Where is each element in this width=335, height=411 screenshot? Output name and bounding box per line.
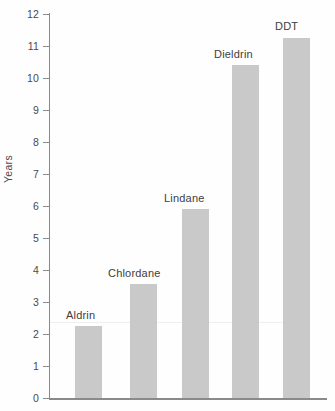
bar-label-lindane: Lindane bbox=[164, 193, 205, 204]
bar-label-dieldrin: Dieldrin bbox=[214, 49, 253, 60]
y-axis-tick-mark bbox=[43, 14, 49, 15]
bar-chlordane bbox=[130, 284, 157, 398]
y-axis-tick-label: 4 bbox=[9, 265, 39, 276]
y-axis-tick-label: 3 bbox=[9, 297, 39, 308]
y-axis-tick-mark bbox=[43, 142, 49, 143]
y-axis-tick-label: 1 bbox=[9, 361, 39, 372]
bar-label-ddt: DDT bbox=[275, 21, 298, 32]
y-axis-tick-label: 2 bbox=[9, 329, 39, 340]
y-axis-tick-mark bbox=[43, 334, 49, 335]
y-axis-tick-label: 10 bbox=[9, 73, 39, 84]
y-axis-tick-mark bbox=[43, 302, 49, 303]
scan-artifact-line bbox=[49, 322, 307, 323]
y-axis-tick-mark bbox=[43, 46, 49, 47]
y-axis-line bbox=[49, 13, 50, 399]
y-axis-tick-mark bbox=[43, 398, 49, 399]
y-axis-tick-mark bbox=[43, 110, 49, 111]
bar-chart: Years 1211109876543210 AldrinChlordaneLi… bbox=[0, 0, 335, 411]
y-axis-tick-label: 12 bbox=[9, 9, 39, 20]
bar-ddt bbox=[283, 38, 310, 398]
y-axis-tick-label: 0 bbox=[9, 393, 39, 404]
bar-dieldrin bbox=[232, 65, 259, 398]
y-axis-tick-label: 11 bbox=[9, 41, 39, 52]
bar-label-aldrin: Aldrin bbox=[66, 310, 95, 321]
y-axis-tick-mark bbox=[43, 270, 49, 271]
y-axis-tick-label: 6 bbox=[9, 201, 39, 212]
y-axis-tick-mark bbox=[43, 206, 49, 207]
y-axis-tick-mark bbox=[43, 174, 49, 175]
y-axis-tick-mark bbox=[43, 238, 49, 239]
bar-label-chlordane: Chlordane bbox=[108, 268, 161, 279]
y-axis-tick-label: 9 bbox=[9, 105, 39, 116]
y-axis-tick-label: 5 bbox=[9, 233, 39, 244]
bar-lindane bbox=[182, 209, 209, 398]
y-axis-tick-label: 8 bbox=[9, 137, 39, 148]
y-axis-tick-mark bbox=[43, 366, 49, 367]
x-axis-line bbox=[49, 398, 327, 400]
bar-aldrin bbox=[75, 326, 102, 398]
y-axis-tick-mark bbox=[43, 78, 49, 79]
y-axis-tick-label: 7 bbox=[9, 169, 39, 180]
